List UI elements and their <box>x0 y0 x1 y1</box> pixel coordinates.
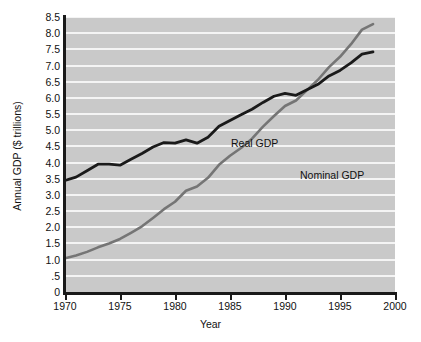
x-axis-tick-label: 1980 <box>145 300 205 312</box>
x-axis-title: Year <box>0 318 421 330</box>
plot-area: Real GDP Nominal GDP <box>65 17 395 292</box>
y-axis-tick-label: 0 <box>4 287 60 297</box>
x-axis-tick-label: 1970 <box>35 300 95 312</box>
series-annotation-real-gdp: Real GDP <box>231 137 278 149</box>
x-axis-tick <box>395 294 397 300</box>
x-axis-tick-label: 1985 <box>200 300 260 312</box>
y-axis-tick-label: 8.5 <box>4 12 60 22</box>
x-axis-tick-label: 2000 <box>365 300 421 312</box>
x-axis-tick-label: 1975 <box>90 300 150 312</box>
x-axis-tick <box>230 294 232 300</box>
y-axis-line <box>63 15 66 294</box>
y-axis-tick-label: .5 <box>4 271 60 281</box>
x-axis-tick <box>175 294 177 300</box>
series-line-nominal-gdp <box>65 24 373 258</box>
y-axis-title: Annual GDP ($ trillions) <box>11 46 23 266</box>
x-axis-tick <box>65 294 67 300</box>
x-axis-tick <box>120 294 122 300</box>
x-axis-tick <box>285 294 287 300</box>
y-axis-tick-label: 8.0 <box>4 28 60 38</box>
series-annotation-nominal-gdp: Nominal GDP <box>300 169 364 181</box>
x-axis-tick <box>340 294 342 300</box>
x-axis-tick-label: 1990 <box>255 300 315 312</box>
x-axis-tick-label: 1995 <box>310 300 370 312</box>
data-series-layer <box>65 17 395 292</box>
y-axis-tick-labels: 0.51.01.52.02.53.03.54.04.55.05.56.06.57… <box>0 0 60 342</box>
gdp-line-chart: Real GDP Nominal GDP 0.51.01.52.02.53.03… <box>0 0 421 342</box>
